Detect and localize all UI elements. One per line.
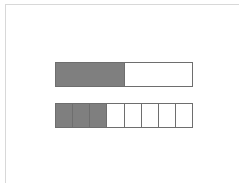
fraction-bar-halves [55, 62, 193, 87]
empty-segment [124, 104, 141, 127]
shaded-segment [56, 104, 72, 127]
frame-top-border [5, 4, 239, 5]
shaded-segment [72, 104, 89, 127]
shaded-segment [89, 104, 106, 127]
fraction-bar-eighths [55, 103, 193, 128]
empty-segment [175, 104, 192, 127]
empty-segment [124, 63, 193, 86]
frame-left-border [5, 4, 6, 183]
empty-segment [141, 104, 158, 127]
empty-segment [158, 104, 175, 127]
empty-segment [106, 104, 123, 127]
shaded-segment [56, 63, 124, 86]
